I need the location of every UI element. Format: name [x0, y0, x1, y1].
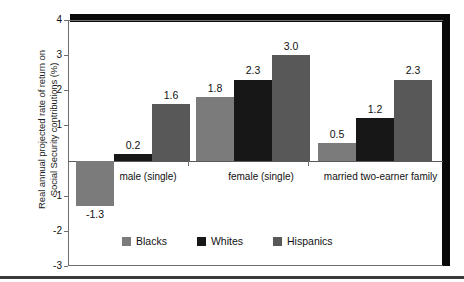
category-label-married-two-earner: married two-earner family [313, 172, 448, 182]
bar-female-single-hispanics [272, 55, 310, 160]
bar-male-single-whites [114, 154, 152, 161]
bar-value-married-two-earner-whites: 1.2 [356, 104, 394, 115]
legend-swatch-icon-whites [197, 237, 206, 246]
group-separator-2 [308, 161, 309, 166]
plot-frame-top [68, 20, 443, 21]
bar-value-male-single-blacks: -1.3 [76, 209, 114, 220]
chart-figure: Real annual projected rate of return on … [0, 0, 464, 282]
bar-male-single-hispanics [152, 104, 190, 160]
bar-value-female-single-blacks: 1.8 [196, 83, 234, 94]
y-axis-line [68, 20, 69, 266]
bar-value-married-two-earner-hispanics: 2.3 [394, 65, 432, 76]
plot-area: 4 3 2 1 -1 -2 -3 [68, 20, 448, 266]
y-tick-label-1: 1 [56, 120, 62, 130]
y-axis-title: Real annual projected rate of return on … [36, 5, 59, 255]
bar-value-married-two-earner-blacks: 0.5 [318, 129, 356, 140]
legend-item-whites: Whites [197, 236, 243, 247]
legend-item-blacks: Blacks [122, 236, 167, 247]
category-label-female-single: female (single) [201, 172, 321, 182]
legend-swatch-icon-hispanics [273, 237, 282, 246]
legend-swatch-icon-blacks [122, 237, 131, 246]
bar-value-female-single-hispanics: 3.0 [272, 41, 310, 52]
bar-value-male-single-whites: 0.2 [114, 140, 152, 151]
bar-value-male-single-hispanics: 1.6 [152, 90, 190, 101]
figure-bottom-rule [0, 276, 464, 279]
zero-baseline [68, 161, 443, 162]
category-label-male-single: male (single) [88, 172, 208, 182]
bar-male-single-blacks [76, 161, 114, 207]
y-tick-label-4: 4 [56, 15, 62, 25]
y-tick-label-3: 3 [56, 50, 62, 60]
bar-female-single-whites [234, 80, 272, 161]
chart-legend: Blacks Whites Hispanics [122, 236, 333, 247]
bar-female-single-blacks [196, 97, 234, 160]
y-axis-title-line-1: Real annual projected rate of return on [36, 5, 48, 255]
bar-value-female-single-whites: 2.3 [234, 65, 272, 76]
y-tick-label-minus-2: -2 [53, 226, 62, 236]
legend-label-hispanics: Hispanics [287, 236, 333, 247]
legend-label-whites: Whites [211, 236, 243, 247]
bar-married-two-earner-hispanics [394, 80, 432, 161]
bar-married-two-earner-whites [356, 118, 394, 160]
legend-label-blacks: Blacks [136, 236, 167, 247]
y-tick-label-minus-3: -3 [53, 261, 62, 271]
plot-frame-bottom [68, 265, 443, 266]
y-tick-label-minus-1: -1 [53, 191, 62, 201]
y-tick-label-2: 2 [56, 85, 62, 95]
plot-bevel-right [442, 14, 450, 266]
legend-item-hispanics: Hispanics [273, 236, 333, 247]
group-separator-1 [188, 161, 189, 166]
bar-married-two-earner-blacks [318, 143, 356, 161]
